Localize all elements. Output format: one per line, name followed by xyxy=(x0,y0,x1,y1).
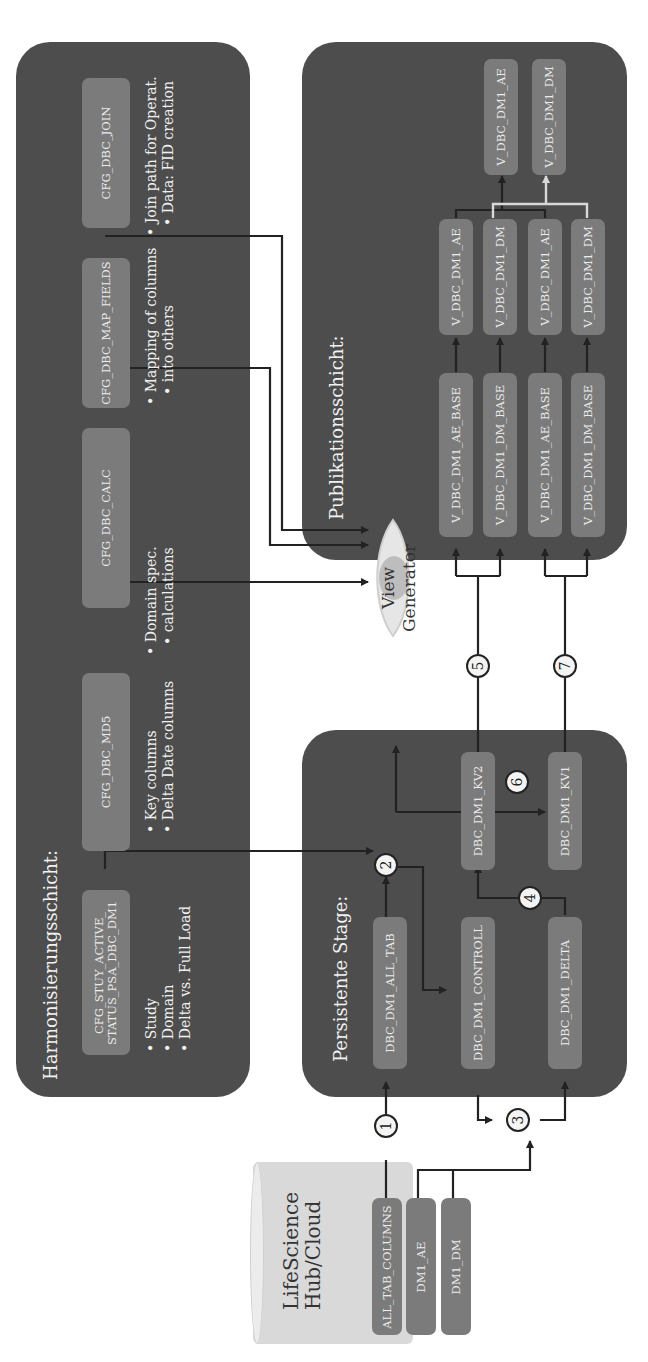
source-dm1-ae[interactable]: DM1_AE xyxy=(406,1198,436,1335)
step-7-badge: 7 xyxy=(553,654,577,678)
publication-title: Publikationsschicht: xyxy=(326,335,347,520)
psa-kv2[interactable]: DBC_DM1_KV2 xyxy=(461,752,495,870)
config-map-fields-label: CFG_DBC_MAP_FIELDS xyxy=(100,261,113,404)
config-stuy-line2: STATUS_PSA_DBC_DM1 xyxy=(106,900,119,1044)
harmonization-title: Harmonisierungsschicht: xyxy=(40,850,61,1080)
view-generator-label: View Generator xyxy=(378,544,420,632)
source-all-tab-columns[interactable]: ALL_TAB_COLUMNS xyxy=(372,1198,402,1335)
mid-view-1[interactable]: V_DBC_DM1_AE xyxy=(439,219,473,335)
config-md5-bullets: Key columns Delta Date columns xyxy=(143,681,177,833)
base-view-4[interactable]: V_DBC_DM1_DM_BASE xyxy=(571,373,605,537)
step-4-badge: 4 xyxy=(518,886,542,910)
psa-title: Persistente Stage: xyxy=(330,896,351,1062)
config-calc-bullets: Domain spec. calculations xyxy=(143,546,177,655)
base-view-1[interactable]: V_DBC_DM1_AE_BASE xyxy=(439,373,473,537)
final-view-dm[interactable]: V_DBC_DM1_DM xyxy=(532,59,566,175)
config-calc-label: CFG_DBC_CALC xyxy=(100,469,113,567)
psa-controll[interactable]: DBC_DM1_CONTROLL xyxy=(461,917,495,1069)
base-view-2[interactable]: V_DBC_DM1_DM_BASE xyxy=(483,373,517,537)
step-6-badge: 6 xyxy=(505,770,529,794)
source-dm1-dm[interactable]: DM1_DM xyxy=(441,1198,471,1335)
psa-delta[interactable]: DBC_DM1_DELTA xyxy=(548,917,582,1069)
config-join-bullets: Join path for Operat. Data: FID creation xyxy=(143,76,177,236)
mid-view-2[interactable]: V_DBC_DM1_DM xyxy=(483,219,517,335)
base-view-3[interactable]: V_DBC_DM1_AE_BASE xyxy=(528,373,562,537)
step-1-badge: 1 xyxy=(374,1114,398,1138)
step-3-badge: 3 xyxy=(506,1108,530,1132)
psa-all-tab[interactable]: DBC_DM1_ALL_TAB xyxy=(373,917,407,1069)
step-2-badge: 2 xyxy=(374,853,398,877)
config-stuy-active-status[interactable]: CFG_STUY_ACTIVE_ STATUS_PSA_DBC_DM1 xyxy=(82,890,130,1055)
source-title: LifeScience Hub/Cloud xyxy=(280,1192,324,1310)
final-view-ae[interactable]: V_DBC_DM1_AE xyxy=(484,59,518,175)
config-join-label: CFG_DBC_JOIN xyxy=(100,107,113,200)
config-map-fields[interactable]: CFG_DBC_MAP_FIELDS xyxy=(82,258,130,408)
config-md5[interactable]: CFG_DBC_MD5 xyxy=(82,673,130,851)
psa-kv1[interactable]: DBC_DM1_KV1 xyxy=(548,752,582,870)
config-stuy-bullets: Study Domain Delta vs. Full Load xyxy=(143,906,194,1052)
step-5-badge: 5 xyxy=(466,654,490,678)
config-calc[interactable]: CFG_DBC_CALC xyxy=(82,428,130,608)
config-join[interactable]: CFG_DBC_JOIN xyxy=(82,78,130,228)
mid-view-4[interactable]: V_DBC_DM1_DM xyxy=(571,219,605,335)
config-map-fields-bullets: Mapping of columns into others xyxy=(143,247,177,405)
config-md5-label: CFG_DBC_MD5 xyxy=(100,716,113,808)
mid-view-3[interactable]: V_DBC_DM1_AE xyxy=(528,219,562,335)
